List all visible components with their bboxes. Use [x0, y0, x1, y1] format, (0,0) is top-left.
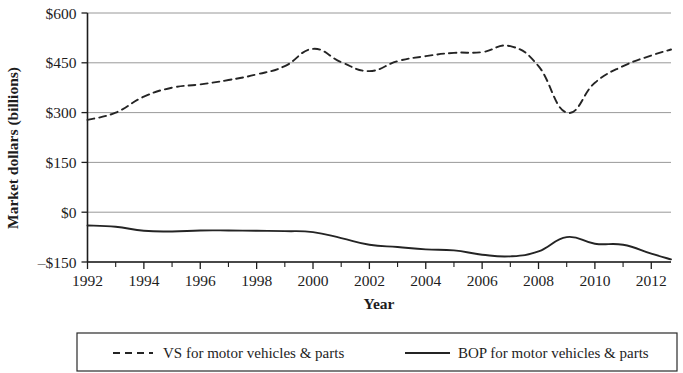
- y-tick-labels: –$150$0$150$300$450$600: [37, 5, 77, 271]
- chart-legend: VS for motor vehicles & parts BOP for mo…: [77, 333, 677, 371]
- x-tick-label: 1994: [128, 272, 159, 289]
- x-tick-label: 1996: [185, 272, 216, 289]
- x-tick-marks: [88, 262, 652, 269]
- x-tick-label: 1992: [72, 272, 103, 289]
- x-tick-labels: 1992199419961998200020022004200620082010…: [72, 272, 667, 289]
- y-tick-marks: [82, 13, 88, 262]
- gridlines: [88, 13, 672, 262]
- chart-figure: –$150$0$150$300$450$600 1992199419961998…: [0, 0, 683, 373]
- x-tick-label: 2004: [410, 272, 441, 289]
- series-path-bop: [88, 225, 672, 259]
- y-tick-label: $150: [46, 154, 77, 171]
- x-tick-label: 2008: [523, 272, 554, 289]
- y-axis-title: Market dollars (billions): [4, 67, 22, 229]
- y-tick-label: $0: [61, 204, 77, 221]
- legend-label-bop: BOP for motor vehicles & parts: [458, 345, 649, 361]
- x-tick-label: 1998: [241, 272, 272, 289]
- y-tick-label: –$150: [37, 254, 77, 271]
- y-tick-label: $450: [46, 54, 77, 71]
- x-tick-label: 2006: [467, 272, 498, 289]
- x-tick-label: 2012: [636, 272, 667, 289]
- series-path-vs: [88, 45, 672, 119]
- legend-label-vs: VS for motor vehicles & parts: [163, 345, 344, 361]
- x-axis-title: Year: [364, 295, 395, 312]
- x-tick-label: 2002: [354, 272, 385, 289]
- x-tick-label: 2000: [298, 272, 329, 289]
- y-tick-label: $300: [46, 104, 77, 121]
- y-tick-label: $600: [46, 5, 77, 22]
- chart-svg: –$150$0$150$300$450$600 1992199419961998…: [0, 0, 683, 373]
- x-tick-label: 2010: [579, 272, 610, 289]
- data-series: [88, 45, 672, 259]
